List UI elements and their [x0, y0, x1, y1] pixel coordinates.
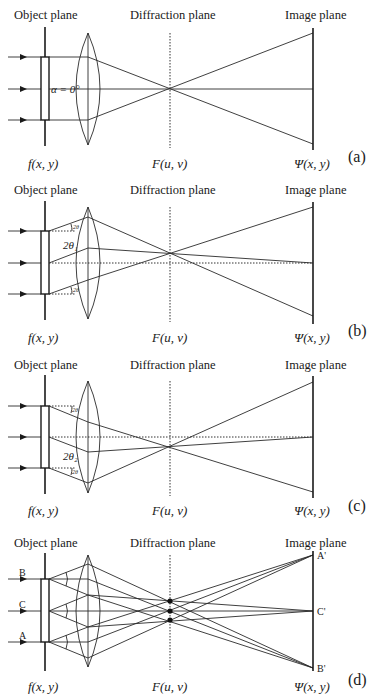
object-function: f(x, y) [28, 156, 58, 171]
arrow-icon [20, 403, 27, 409]
object-plane-label: Object plane [14, 536, 78, 550]
diffraction-function: F(u, v) [151, 156, 187, 171]
ray [49, 627, 88, 642]
image-function: Ψ(x, y) [294, 679, 330, 694]
diffraction-function: F(u, v) [151, 679, 187, 694]
arrow-icon [20, 117, 27, 123]
tilt-angle-annotation: 2θ₁ [63, 239, 78, 251]
tilt-angle-annotation: α = 0° [51, 83, 80, 95]
object-specimen [41, 406, 49, 468]
ray [49, 406, 88, 422]
angle-label: 2θ [72, 469, 78, 475]
ray-bundle [49, 555, 313, 668]
ray [49, 280, 88, 294]
ray [88, 595, 313, 611]
ray [88, 33, 313, 120]
optics-figure: Object plane Diffraction plane Image pla… [0, 0, 387, 697]
arrow-icon [20, 434, 27, 440]
ray [49, 468, 88, 483]
ray [88, 555, 313, 658]
diffraction-plane-label: Diffraction plane [130, 8, 216, 22]
object-function: f(x, y) [28, 679, 58, 694]
panel-b: Object plane Diffraction plane Image pla… [8, 183, 367, 345]
diffraction-plane-label: Diffraction plane [130, 183, 216, 197]
arrow-icon [20, 465, 27, 471]
angle-label: 2θ [73, 224, 79, 230]
image-function: Ψ(x, y) [294, 156, 330, 171]
object-plane-label: Object plane [14, 183, 78, 197]
ray [49, 595, 88, 611]
arrow-icon [20, 228, 27, 234]
arrow-icon [20, 86, 27, 92]
image-plane-label: Image plane [285, 536, 347, 550]
diffraction-plane-label: Diffraction plane [130, 536, 216, 550]
panel-a: Object plane Diffraction plane Image pla… [8, 8, 366, 171]
ray [88, 207, 313, 280]
panel-tag: (a) [348, 148, 366, 166]
angle-arc [71, 224, 72, 231]
image-point-label: A' [317, 550, 326, 561]
panel-d: Object plane Diffraction plane Image pla… [8, 536, 367, 694]
angle-arc [71, 287, 72, 294]
angle-label: 2θ [72, 407, 78, 413]
image-point-label: B' [317, 663, 326, 674]
image-plane-label: Image plane [285, 358, 347, 372]
arrow-icon [20, 260, 27, 266]
arrow-icon [20, 54, 27, 60]
ray [88, 579, 313, 668]
ray [88, 217, 313, 316]
object-function: f(x, y) [28, 503, 58, 518]
diffraction-function: F(u, v) [151, 503, 187, 518]
tilt-angle-annotation: 2θ₂ [63, 450, 78, 462]
image-plane-label: Image plane [285, 183, 347, 197]
ray [88, 248, 313, 263]
arrow-icon [20, 291, 27, 297]
diffraction-spot [167, 598, 172, 603]
diffraction-spot [167, 608, 172, 613]
ray [88, 555, 313, 642]
diffraction-plane-label: Diffraction plane [130, 358, 216, 372]
panel-tag: (c) [348, 497, 366, 515]
ray [88, 437, 313, 452]
diffraction-function: F(u, v) [151, 330, 187, 345]
object-specimen [41, 57, 49, 120]
object-specimen [41, 231, 49, 294]
image-function: Ψ(x, y) [294, 503, 330, 518]
panel-tag: (b) [348, 322, 367, 340]
image-point-label: C' [317, 606, 326, 617]
object-specimen [41, 579, 49, 642]
panel-c: Object plane Diffraction plane Image pla… [8, 358, 366, 518]
object-function: f(x, y) [28, 330, 58, 345]
image-function: Ψ(x, y) [294, 330, 330, 345]
ray [49, 611, 88, 627]
object-plane-label: Object plane [14, 358, 78, 372]
ray [88, 611, 313, 627]
panel-tag: (d) [348, 671, 367, 689]
diffraction-spot [167, 617, 172, 622]
object-plane-label: Object plane [14, 8, 78, 22]
ray [49, 579, 88, 595]
image-plane-label: Image plane [285, 8, 347, 22]
ray [88, 595, 313, 668]
ray [88, 57, 313, 144]
